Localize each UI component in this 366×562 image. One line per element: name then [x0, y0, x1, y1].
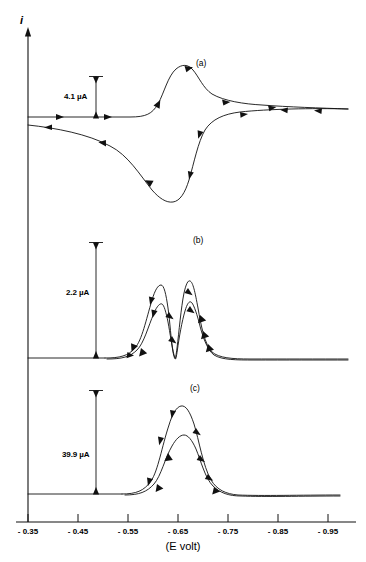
panel-b-scale-bar — [89, 242, 103, 359]
panel-b-scale-label: 2.2 µA — [66, 288, 89, 297]
panel-c-scale-bar — [89, 390, 103, 495]
axis-group — [16, 27, 356, 522]
y-axis-arrow-icon — [25, 27, 31, 37]
panel-b-outer-trace — [105, 281, 348, 359]
x-axis-ticks — [28, 514, 328, 522]
panel-a-scale-label: 4.1 µA — [64, 92, 87, 101]
panel-c-outer-trace — [122, 406, 340, 496]
panel-c-label: (c) — [190, 383, 200, 393]
x-tick-label-4: - 0.65 — [168, 527, 188, 536]
voltammogram-figure: i 4.1 µA (a) 2.2 µA (b) 39.9 µA (c) - 0.… — [0, 0, 366, 562]
panel-c-direction-arrows — [147, 410, 220, 495]
x-tick-label-5: - 0.75 — [218, 527, 238, 536]
panel-a-label: (a) — [196, 58, 206, 68]
x-tick-label-2: - 0.45 — [68, 527, 88, 536]
panel-a-traces — [28, 65, 348, 202]
x-axis-title: (E volt) — [166, 540, 201, 552]
x-tick-label-6: - 0.85 — [268, 527, 288, 536]
x-tick-label-7: - 0.95 — [318, 527, 338, 536]
panel-a-cathodic-trace — [28, 109, 348, 203]
panel-b-label: (b) — [193, 235, 203, 245]
panel-c-scale-label: 39.9 µA — [62, 450, 89, 459]
plot-canvas — [0, 0, 366, 562]
panel-a-scale-bar — [89, 76, 103, 119]
panel-b-traces — [28, 242, 348, 360]
y-axis-label: i — [20, 14, 23, 26]
panel-c-traces — [28, 390, 340, 496]
x-tick-label-1: - 0.35 — [18, 527, 38, 536]
panel-a-direction-arrows — [44, 66, 322, 187]
x-tick-label-3: - 0.55 — [118, 527, 138, 536]
